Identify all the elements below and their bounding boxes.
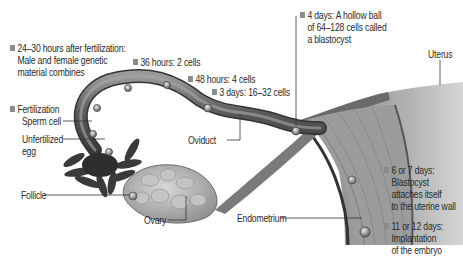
unfertilized-egg-cell [106, 149, 113, 156]
label-follicle: Follicle [21, 189, 46, 201]
stage-4-days: 4 days: A hollow ball of 64–128 cells ca… [300, 9, 387, 45]
stage-36-hours: 36 hours: 2 cells [133, 56, 200, 68]
stage-fertilization: Fertilization [10, 103, 59, 115]
bullet-square-icon [212, 89, 217, 95]
stage-11-12-days: 11 or 12 days: Implantation of the embry… [384, 220, 443, 256]
bullet-square-icon [384, 167, 389, 173]
stage-24-30-hours: 24–30 hours after fertilization: Male an… [10, 42, 126, 78]
ovary-shape [123, 165, 217, 223]
follicle-cell [129, 192, 137, 200]
label-sperm-cell: Sperm cell [22, 115, 61, 127]
attachment-stage [348, 176, 356, 184]
bullet-square-icon [300, 12, 305, 18]
stage-48-hours: 48 hours: 4 cells [188, 73, 255, 85]
stage-6-7-days: 6 or 7 days: Blastocyst attaches itself … [384, 164, 456, 212]
implantation-stage [360, 227, 370, 237]
bullet-square-icon [133, 59, 138, 65]
label-endometrium: Endometrium [237, 212, 286, 224]
fertilized-cell [94, 105, 101, 112]
stage-3-days: 3 days: 16–32 cells [212, 86, 290, 98]
bullet-square-icon [188, 76, 193, 82]
bullet-square-icon [384, 223, 389, 229]
label-unfertilized-egg: Unfertilized egg [22, 133, 63, 157]
morula-stage [204, 104, 212, 112]
reproduction-diagram: 24–30 hours after fertilization: Male an… [0, 0, 463, 268]
label-ovary: Ovary [144, 214, 166, 226]
blastocyst-stage [292, 127, 300, 135]
sperm-cell [90, 131, 97, 138]
four-cell-stage [164, 82, 171, 89]
bullet-square-icon [10, 45, 15, 51]
two-cell-stage [125, 85, 132, 92]
label-oviduct: Oviduct [188, 134, 216, 146]
bullet-square-icon [10, 106, 15, 112]
label-uterus: Uterus [428, 48, 452, 60]
